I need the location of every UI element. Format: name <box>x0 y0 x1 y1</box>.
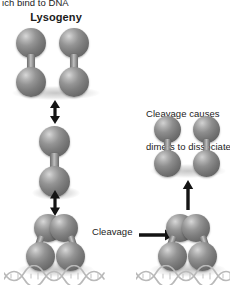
dna-double-helix <box>4 265 108 285</box>
lambda-repressor-figure: ich bind to DNA Lysogeny Cleavage causes… <box>0 0 230 291</box>
state-dna-bound-dimer <box>16 212 96 284</box>
state-two-free-dimers <box>14 28 98 98</box>
state-dissociated-monomers <box>152 116 224 178</box>
dissociation-arrow-up <box>181 180 195 210</box>
state-free-dimer <box>38 126 74 198</box>
monomer-sphere <box>16 67 46 97</box>
monomer-sphere <box>193 150 220 177</box>
monomer-stub <box>203 139 210 147</box>
dna-double-helix <box>136 265 230 285</box>
equilibrium-arrow-upper <box>48 100 62 124</box>
state-dna-bound-dimer-cleaved <box>148 212 228 284</box>
monomer-sphere <box>59 67 89 97</box>
cleavage-label: Cleavage <box>92 226 133 237</box>
lysogeny-heading: Lysogeny <box>0 11 112 24</box>
caption-top-fragment: ich bind to DNA <box>2 0 69 8</box>
monomer-stub <box>164 139 171 147</box>
monomer-sphere <box>154 150 181 177</box>
